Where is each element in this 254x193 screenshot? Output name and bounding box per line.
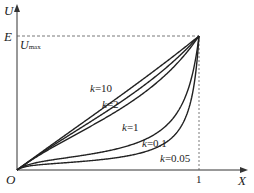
origin-label: O	[6, 173, 15, 186]
curve-label-k0.1: k=0.1	[142, 138, 167, 149]
y-axis-label: U	[4, 4, 13, 17]
umax-sub: max	[29, 43, 41, 51]
curve-label-k10: k=10	[90, 83, 112, 94]
y-tick-umax: Umax	[20, 39, 41, 51]
chart-canvas	[0, 0, 254, 193]
curve-label-k2: k=2	[102, 99, 119, 110]
curve-label-k1: k=1	[122, 122, 139, 133]
umax-main: U	[20, 38, 29, 52]
y-axis-arrow-icon	[14, 4, 20, 12]
y-tick-E: E	[4, 30, 12, 43]
curve-label-k0.05: k=0.05	[160, 153, 190, 164]
x-axis-label: X	[238, 174, 246, 187]
x-tick-1: 1	[196, 174, 202, 185]
